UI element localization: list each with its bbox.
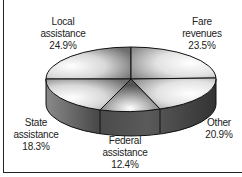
label-federal-assistance: Federal assistance 12.4%: [90, 135, 160, 171]
label-name: State: [4, 117, 68, 129]
label-name: Local: [28, 16, 98, 28]
label-value: 23.5%: [172, 40, 232, 52]
label-value: 24.9%: [28, 40, 98, 52]
label-other: Other 20.9%: [196, 117, 242, 141]
label-value: 20.9%: [196, 129, 242, 141]
label-name: Fare: [172, 16, 232, 28]
label-name: assistance: [28, 28, 98, 40]
label-local-assistance: Local assistance 24.9%: [28, 16, 98, 52]
label-state-assistance: State assistance 18.3%: [4, 117, 68, 153]
label-value: 12.4%: [90, 159, 160, 171]
label-name: Other: [196, 117, 242, 129]
label-fare-revenues: Fare revenues 23.5%: [172, 16, 232, 52]
label-name: Federal: [90, 135, 160, 147]
label-name: revenues: [172, 28, 232, 40]
label-value: 18.3%: [4, 141, 68, 153]
label-name: assistance: [90, 147, 160, 159]
label-name: assistance: [4, 129, 68, 141]
